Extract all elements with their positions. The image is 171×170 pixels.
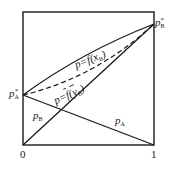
diagram-canvas bbox=[0, 0, 171, 170]
pA-line-label: pA bbox=[115, 115, 125, 127]
pB-star-label: pB* bbox=[155, 17, 164, 29]
pA-star-sup: * bbox=[15, 87, 19, 95]
pA-star-label: pA* bbox=[9, 88, 18, 100]
pB-star-sup: * bbox=[161, 16, 165, 24]
x-axis-max-label: 1 bbox=[151, 149, 157, 160]
pB-partial-pressure-line bbox=[23, 24, 154, 145]
x-axis-min-label: 0 bbox=[20, 149, 26, 160]
pB-line-sub: B bbox=[39, 116, 43, 122]
pB-line-label: pB bbox=[33, 110, 43, 122]
pA-partial-pressure-line bbox=[23, 95, 154, 145]
pA-line-sub: A bbox=[121, 121, 125, 127]
